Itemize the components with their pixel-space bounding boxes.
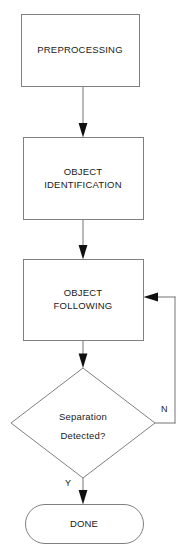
arrowhead-identification-following xyxy=(79,245,88,260)
node-separation-detected-shape[interactable] xyxy=(11,368,155,478)
node-object-following-shape[interactable] xyxy=(24,260,144,341)
flowchart-vector-layer xyxy=(0,0,190,555)
edge-label-no: N xyxy=(161,404,168,414)
arrowhead-following-decision xyxy=(79,354,88,369)
flowchart-diagram: PREPROCESSING OBJECT IDENTIFICATION OBJE… xyxy=(0,0,190,555)
node-object-identification-shape[interactable] xyxy=(24,138,144,220)
node-done-shape[interactable] xyxy=(26,505,144,544)
arrowhead-no-loop-into-following xyxy=(144,293,159,302)
arrowhead-preprocessing-identification xyxy=(79,123,88,138)
edge-label-yes: Y xyxy=(65,478,71,488)
arrowhead-yes-done xyxy=(79,490,88,505)
node-preprocessing-shape[interactable] xyxy=(22,15,140,87)
